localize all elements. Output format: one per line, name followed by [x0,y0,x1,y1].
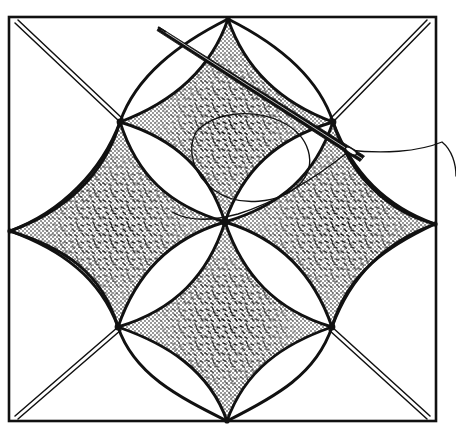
top-edge-node [225,16,230,21]
bottom-edge-node [224,418,229,423]
bottom-right-node [329,324,336,331]
right-edge-node [432,221,437,226]
illustration-canvas: Needlework pattern diagram: four-petal r… [0,0,456,432]
top-left-node [117,119,124,126]
pattern-drawing [0,0,456,432]
left-edge-node [7,228,12,233]
bottom-left-node [115,324,122,331]
center-node [221,218,229,226]
top-right-node [330,119,337,126]
